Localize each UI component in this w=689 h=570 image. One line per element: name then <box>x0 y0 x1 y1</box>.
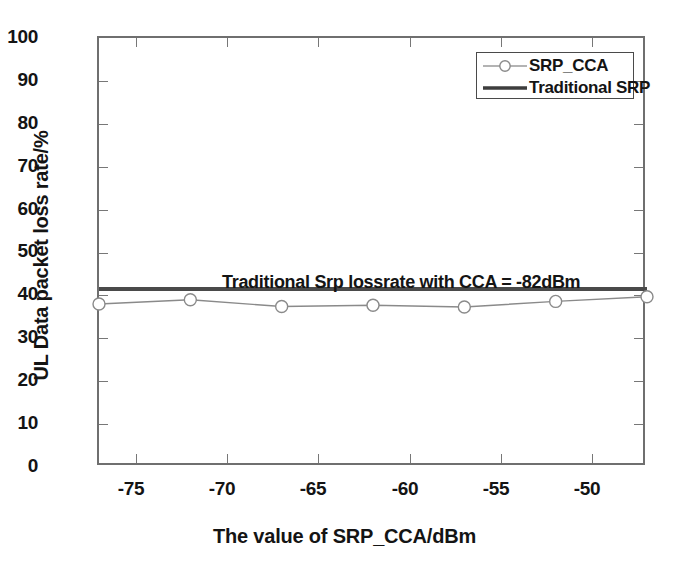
legend-box: SRP_CCA Traditional SRP <box>476 52 634 99</box>
y-tick-label-100: 100 <box>0 26 38 48</box>
legend-label-traditional-srp: Traditional SRP <box>529 78 650 98</box>
x-tick-label-minus70: -70 <box>192 478 252 500</box>
plot-area <box>97 36 645 465</box>
data-point-marker <box>458 301 470 313</box>
x-tick-label-minus55: -55 <box>466 478 526 500</box>
legend-line-solid-icon <box>481 78 529 98</box>
data-point-marker <box>550 295 562 307</box>
x-tick-label-minus50: -50 <box>557 478 617 500</box>
x-tick-label-minus65: -65 <box>283 478 343 500</box>
series-srp-cca <box>93 291 653 313</box>
series-layer <box>99 38 647 467</box>
legend-label-srp-cca: SRP_CCA <box>529 56 608 76</box>
y-tick-label-90: 90 <box>0 69 38 91</box>
legend-entry-traditional-srp: Traditional SRP <box>477 76 633 99</box>
x-tick-label-minus75: -75 <box>101 478 161 500</box>
data-point-marker <box>184 294 196 306</box>
data-point-marker <box>276 301 288 313</box>
data-point-marker <box>93 298 105 310</box>
data-point-marker <box>641 291 653 303</box>
legend-marker-circle-icon <box>481 56 529 76</box>
y-tick-label-0: 0 <box>0 455 38 477</box>
x-axis-title: The value of SRP_CCA/dBm <box>0 525 689 548</box>
chart-figure: 100 90 80 70 60 50 40 30 20 10 0 -75 -70… <box>0 0 689 570</box>
data-point-marker <box>367 299 379 311</box>
legend-entry-srp-cca: SRP_CCA <box>477 54 633 77</box>
traditional-line-annotation: Traditional Srp lossrate with CCA = -82d… <box>222 272 580 293</box>
y-axis-title: UL Data packet loss rate/% <box>30 91 53 421</box>
x-tick-label-minus60: -60 <box>375 478 435 500</box>
